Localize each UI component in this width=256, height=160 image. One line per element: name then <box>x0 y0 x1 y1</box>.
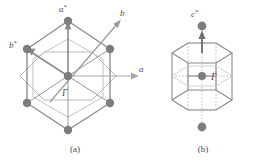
lattice-point-bottom <box>198 123 207 132</box>
lattice-point <box>64 126 72 134</box>
lattice-point <box>23 99 31 107</box>
label-a-arrow: a <box>139 64 144 74</box>
label-a-star: a* <box>59 3 68 14</box>
lattice-point <box>64 17 72 25</box>
lattice-point-gamma <box>198 72 206 80</box>
lattice-point <box>23 45 31 53</box>
panel-a-diagram: a* b b* a Γ <box>0 0 150 145</box>
label-b-arrow: b <box>120 8 125 18</box>
lattice-point <box>106 99 114 107</box>
panel-b: c* Γ (b) <box>150 0 256 160</box>
label-c-star: c* <box>191 8 199 19</box>
label-gamma-b: Γ <box>210 72 217 82</box>
panel-b-diagram: c* Γ <box>150 0 256 145</box>
caption-panel-b: (b) <box>150 144 256 154</box>
axis-a-star <box>65 21 72 76</box>
panel-a: a* b b* a Γ (a) <box>0 0 150 160</box>
label-b-star: b* <box>9 39 18 50</box>
lattice-point-top <box>198 22 207 31</box>
lattice-point <box>106 45 114 53</box>
lattice-point-origin <box>64 72 72 80</box>
axis-c-star <box>199 30 206 53</box>
label-gamma-a: Γ <box>61 88 68 98</box>
figure-container: a* b b* a Γ (a) <box>0 0 256 160</box>
caption-panel-a: (a) <box>0 144 150 154</box>
